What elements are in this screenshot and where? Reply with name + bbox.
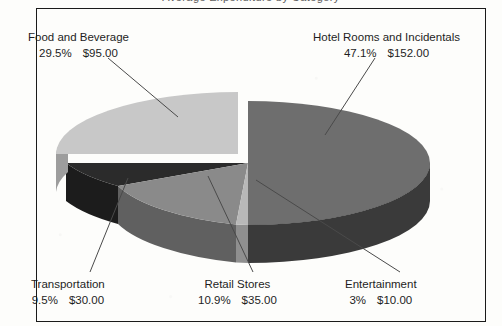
callout-food-amount: $95.00	[83, 46, 118, 62]
callout-hotel-name: Hotel Rooms and Incidentals	[313, 30, 460, 46]
callout-hotel-percent: 47.1%	[344, 46, 377, 62]
callout-food-name: Food and Beverage	[28, 30, 129, 46]
callout-transportation-name: Transportation	[31, 277, 105, 293]
callout-retail-stores: Retail Stores 10.9%$35.00	[198, 277, 277, 308]
callout-entertainment-name: Entertainment	[345, 277, 417, 293]
callout-entertainment-amount: $10.00	[377, 293, 412, 309]
callout-food-values: 29.5%$95.00	[28, 46, 129, 62]
callout-food-and-beverage: Food and Beverage 29.5%$95.00	[28, 30, 129, 61]
callout-entertainment: Entertainment 3%$10.00	[345, 277, 417, 308]
callout-retail-values: 10.9%$35.00	[198, 293, 277, 309]
callout-retail-amount: $35.00	[242, 293, 277, 309]
callout-transportation-percent: 9.5%	[32, 293, 58, 309]
callout-hotel-values: 47.1%$152.00	[313, 46, 460, 62]
callout-transportation-values: 9.5%$30.00	[31, 293, 105, 309]
callout-hotel-amount: $152.00	[388, 46, 430, 62]
slice-top-food	[56, 92, 238, 154]
callout-transportation-amount: $30.00	[69, 293, 104, 309]
callout-hotel-rooms-and-incidentals: Hotel Rooms and Incidentals 47.1%$152.00	[313, 30, 460, 61]
callout-retail-percent: 10.9%	[198, 293, 231, 309]
callout-transportation: Transportation 9.5%$30.00	[31, 277, 105, 308]
callout-entertainment-percent: 3%	[349, 293, 366, 309]
callout-food-percent: 29.5%	[39, 46, 72, 62]
callout-retail-name: Retail Stores	[198, 277, 277, 293]
callout-entertainment-values: 3%$10.00	[345, 293, 417, 309]
